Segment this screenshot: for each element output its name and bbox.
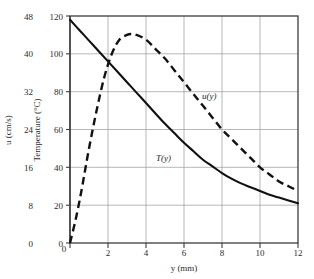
figure-container: 0 2 4 6 8 10 12 y (mm) 0 20 40 60 80 — [0, 0, 314, 279]
series-annotation-T: T(y) — [156, 153, 171, 163]
ttick-label-20: 20 — [54, 201, 64, 211]
utick-label-24: 24 — [24, 125, 34, 135]
utick-label-40: 40 — [24, 49, 34, 59]
xtick-label-10: 10 — [256, 248, 266, 258]
utick-label-0: 0 — [29, 239, 34, 249]
xtick-label-6: 6 — [182, 248, 187, 258]
chart-background — [0, 0, 314, 279]
x-axis-title: y (mm) — [171, 263, 198, 273]
u-axis-title: u (cm/s) — [3, 115, 13, 145]
ttick-label-40: 40 — [54, 163, 64, 173]
xtick-label-2: 2 — [106, 248, 111, 258]
utick-label-8: 8 — [29, 201, 34, 211]
temperature-axis-title: Temperature (°C) — [32, 98, 42, 161]
utick-label-32: 32 — [24, 87, 33, 97]
chart-svg: 0 2 4 6 8 10 12 y (mm) 0 20 40 60 80 — [0, 0, 314, 279]
utick-label-16: 16 — [24, 163, 34, 173]
ttick-label-60: 60 — [54, 125, 64, 135]
xtick-label-12: 12 — [294, 248, 303, 258]
ttick-label-100: 100 — [50, 49, 64, 59]
series-annotation-u: u(y) — [202, 91, 217, 101]
ttick-label-0: 0 — [59, 239, 64, 249]
ttick-label-120: 120 — [50, 12, 64, 22]
xtick-label-8: 8 — [220, 248, 225, 258]
utick-label-48: 48 — [24, 12, 34, 22]
ttick-label-80: 80 — [54, 87, 64, 97]
xtick-label-4: 4 — [144, 248, 149, 258]
